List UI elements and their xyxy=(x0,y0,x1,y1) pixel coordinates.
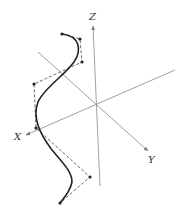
spatial-curve xyxy=(36,34,79,203)
z-axis-label: Z xyxy=(88,11,97,22)
control-polygon xyxy=(32,32,91,204)
diagram-canvas: Z X Y xyxy=(0,0,186,218)
control-point xyxy=(32,82,35,85)
control-point xyxy=(78,37,81,40)
x-axis-label: X xyxy=(13,131,22,142)
control-point xyxy=(80,60,83,63)
control-point xyxy=(88,175,91,178)
y-axis-label: Y xyxy=(148,154,156,165)
control-point xyxy=(34,126,37,129)
